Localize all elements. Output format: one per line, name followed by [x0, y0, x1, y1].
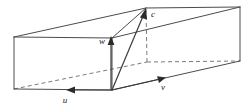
vector-v-label: v [161, 82, 165, 92]
hidden-edge-bottom-back [147, 61, 240, 62]
vector-u-arrowhead [66, 87, 75, 94]
vector-v-group: v [112, 76, 166, 92]
vector-c-label: c [151, 9, 155, 19]
vector-w-label: w [99, 36, 105, 46]
vector-c-shaft [112, 15, 144, 90]
vector-v-shaft [112, 79, 160, 90]
figure-canvas: Parallelepiped spanned by vectors u, v, … [0, 0, 252, 110]
vector-c-group: c [112, 8, 155, 90]
hidden-edges-group [14, 9, 240, 89]
parallelepiped-figure: Parallelepiped spanned by vectors u, v, … [0, 0, 252, 110]
edge-top-left-diagonal [14, 8, 146, 37]
edge-top-back [146, 7, 240, 8]
hidden-edge-bottom-left-diagonal [14, 62, 147, 89]
vector-u-label: u [63, 95, 68, 105]
edge-front-top [14, 37, 112, 38]
visible-edges-group [14, 7, 240, 90]
